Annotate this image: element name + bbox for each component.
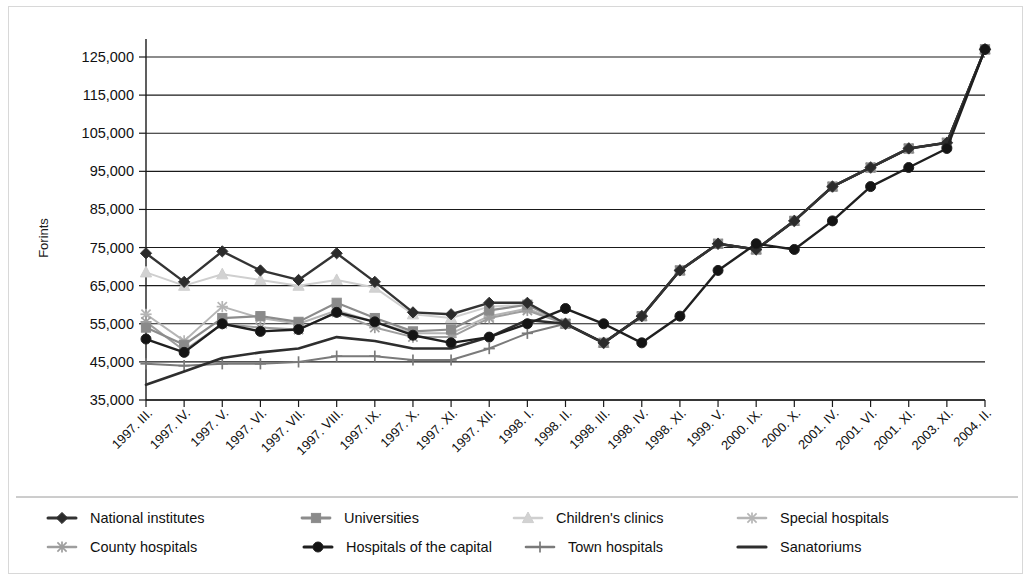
series-hospitals-of-the-capital (141, 44, 990, 357)
data-point-marker (256, 312, 265, 321)
data-point-marker (446, 338, 456, 348)
data-point-marker (56, 541, 67, 552)
legend-item-universities[interactable]: Universities (302, 510, 419, 526)
data-point-marker (980, 44, 990, 54)
legend-label: Universities (344, 510, 419, 526)
data-point-marker (217, 301, 228, 312)
data-point-marker (407, 354, 418, 365)
data-point-marker (140, 358, 151, 369)
x-tick-label: 2004. II. (950, 406, 994, 450)
data-point-marker (56, 512, 67, 523)
legend-label: County hospitals (90, 539, 197, 555)
legend-item-special-hospitals[interactable]: Special hospitals (738, 510, 889, 526)
legend-item-town-hospitals[interactable]: Town hospitals (526, 539, 663, 555)
series-line (146, 49, 985, 384)
series-sanatoriums (146, 49, 985, 384)
data-point-marker (331, 274, 342, 285)
y-axis-title: Forints (36, 218, 51, 258)
data-point-marker (561, 304, 571, 314)
legend-label: Special hospitals (780, 510, 889, 526)
data-point-marker (789, 244, 799, 254)
data-point-marker (445, 354, 456, 365)
x-tick-label: 2000. IX. (718, 406, 765, 453)
legend-item-sanatoriums[interactable]: Sanatoriums (738, 539, 861, 555)
data-point-marker (313, 542, 323, 552)
legend-item-children-s-clinics[interactable]: Children's clinics (514, 510, 664, 526)
y-tick-label: 115,000 (83, 87, 134, 103)
legend-label: Hospitals of the capital (346, 539, 492, 555)
data-point-marker (484, 343, 495, 354)
data-point-marker (751, 239, 761, 249)
data-point-marker (637, 338, 647, 348)
data-point-marker (942, 143, 952, 153)
y-tick-label: 75,000 (90, 240, 134, 256)
data-point-marker (331, 351, 342, 362)
data-point-marker (675, 311, 685, 321)
y-tick-label: 35,000 (90, 392, 134, 408)
data-point-marker (369, 351, 380, 362)
data-point-marker (293, 356, 304, 367)
x-tick-label: 1997. IX. (337, 406, 384, 453)
data-point-marker (484, 332, 494, 342)
data-point-marker (311, 513, 320, 522)
data-point-marker (904, 163, 914, 173)
legend-item-hospitals-of-the-capital[interactable]: Hospitals of the capital (304, 539, 492, 555)
data-point-marker (255, 326, 265, 336)
data-point-marker (140, 266, 151, 277)
data-point-marker (255, 358, 266, 369)
y-tick-label: 125,000 (82, 49, 134, 65)
data-point-marker (746, 512, 757, 523)
line-chart: 35,00045,00055,00065,00075,00085,00095,0… (0, 0, 1035, 585)
x-tick-label: 1998. III. (566, 406, 612, 452)
x-tick-label: 1998. I. (495, 406, 536, 447)
data-point-marker (179, 347, 189, 357)
data-point-marker (446, 325, 455, 334)
y-tick-label: 85,000 (90, 201, 134, 217)
legend-item-county-hospitals[interactable]: County hospitals (48, 539, 197, 555)
x-tick-label: 1997. III. (109, 406, 155, 452)
data-point-marker (827, 216, 837, 226)
data-point-marker (217, 319, 227, 329)
y-tick-label: 105,000 (82, 125, 134, 141)
y-tick-label: 95,000 (90, 163, 134, 179)
series-special-hospitals (140, 44, 990, 349)
data-point-marker (332, 298, 341, 307)
legend-label: National institutes (90, 510, 204, 526)
data-point-marker (599, 319, 609, 329)
x-tick-label: 1997. IV. (147, 406, 194, 453)
data-point-marker (294, 324, 304, 334)
data-point-marker (522, 328, 533, 339)
data-point-marker (141, 334, 151, 344)
data-point-marker (217, 268, 228, 279)
y-tick-label: 65,000 (90, 278, 134, 294)
y-tick-label: 45,000 (90, 354, 134, 370)
data-point-marker (332, 307, 342, 317)
chart-container: 35,00045,00055,00065,00075,00085,00095,0… (0, 0, 1035, 585)
data-point-marker (534, 541, 545, 552)
y-tick-label: 55,000 (90, 316, 134, 332)
series-national-institutes (140, 44, 990, 349)
data-point-marker (370, 317, 380, 327)
data-point-marker (255, 265, 266, 276)
legend-label: Town hospitals (568, 539, 663, 555)
data-point-marker (408, 330, 418, 340)
legend-item-national-institutes[interactable]: National institutes (48, 510, 204, 526)
data-point-marker (713, 265, 723, 275)
legend-label: Children's clinics (556, 510, 664, 526)
x-tick-label: 2003. XI. (909, 406, 956, 453)
data-point-marker (141, 323, 150, 332)
series-children-s-clinics (140, 43, 990, 347)
x-tick-label: 1998. XI. (642, 406, 689, 453)
data-point-marker (866, 182, 876, 192)
data-point-marker (522, 319, 532, 329)
legend-label: Sanatoriums (780, 539, 861, 555)
